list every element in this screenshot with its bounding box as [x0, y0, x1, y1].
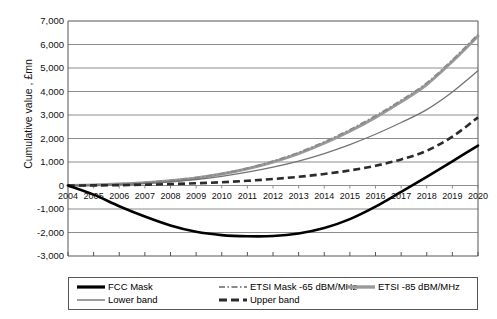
- legend-label: ETSI Mask -65 dBM/MHz: [250, 282, 357, 292]
- legend-line-icon: [77, 282, 105, 292]
- x-axis-tick-label: 2020: [461, 191, 495, 201]
- legend-line-icon: [77, 295, 105, 305]
- legend-item[interactable]: ETSI Mask -65 dBM/MHz: [219, 282, 357, 292]
- legend-label: FCC Mask: [108, 282, 153, 292]
- legend-item[interactable]: ETSI -85 dBM/MHz: [347, 282, 460, 292]
- legend-line-icon: [219, 282, 247, 292]
- legend-label: ETSI -85 dBM/MHz: [378, 282, 460, 292]
- chart-legend: FCC MaskETSI Mask -65 dBM/MHzETSI -85 dB…: [68, 277, 478, 310]
- chart-container: Cumulative value , £mn 7,0006,0005,0004,…: [0, 0, 497, 319]
- legend-item[interactable]: Upper band: [219, 295, 300, 305]
- legend-item[interactable]: FCC Mask: [77, 282, 153, 292]
- legend-line-icon: [347, 282, 375, 292]
- legend-label: Lower band: [108, 295, 158, 305]
- legend-item[interactable]: Lower band: [77, 295, 158, 305]
- legend-line-icon: [219, 295, 247, 305]
- legend-label: Upper band: [250, 295, 300, 305]
- x-axis-tick-labels: 2004200520062007200820092010201120122013…: [0, 0, 497, 319]
